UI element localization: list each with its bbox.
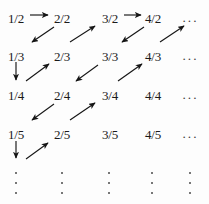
arrow-4-2-to-3-3-downleft [122,27,144,42]
arrow-1-6-to-2-5-upright [26,143,48,159]
column-3-vertical-ellipsis [107,172,110,194]
cell-3-3: 3/3 [102,50,118,63]
arrow-2-5-to-3-4-upright [70,103,95,120]
cell-3-4: 3/4 [102,89,118,102]
column-2-vertical-ellipsis [60,172,63,194]
cell-2-5: 2/5 [54,128,70,141]
cell-2-2: 2/2 [54,12,70,25]
row-1-horizontal-ellipsis: ··· [182,14,198,27]
row-3-horizontal-ellipsis: ··· [182,91,198,104]
cell-1-5: 1/5 [8,128,24,141]
cell-2-3: 2/3 [54,50,70,63]
cell-1-3: 1/3 [8,50,24,63]
row-4-horizontal-ellipsis: ··· [182,130,198,143]
arrow-1-4-to-2-3-upright [26,64,49,81]
row-2-horizontal-ellipsis: ··· [182,52,198,65]
cell-4-2: 4/2 [145,12,161,25]
cell-4-3: 4/3 [145,50,161,63]
arrow-3-4-to-4-3-upright [118,64,142,81]
column-5-vertical-ellipsis [188,172,191,194]
cell-4-4: 4/4 [145,89,161,102]
arrow-2-2-to-1-3-downleft [32,27,54,42]
cell-3-5: 3/5 [102,128,118,141]
arrow-2-4-to-1-5-downleft [32,104,54,120]
cell-1-4: 1/4 [8,89,24,102]
cell-3-2: 3/2 [102,12,118,25]
column-4-vertical-ellipsis [150,172,153,194]
arrow-3-3-to-2-4-downleft [76,65,98,81]
cell-4-5: 4/5 [145,128,161,141]
arrow-2-3-to-3-2-upright [70,26,95,42]
cell-2-4: 2/4 [54,89,70,102]
arrow-4-3-to-next-upright [160,26,184,42]
cell-1-2: 1/2 [8,12,24,25]
cantor-diagonal-figure: 1/2 2/2 3/2 4/2 ··· 1/3 2/3 3/3 4/3 ··· … [0,0,209,204]
column-1-vertical-ellipsis [14,172,17,194]
